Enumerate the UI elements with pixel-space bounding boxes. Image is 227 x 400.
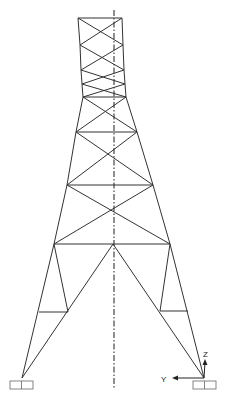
z-arrowhead-icon (203, 359, 208, 365)
brace (67, 185, 170, 244)
left-main-leg (22, 244, 54, 378)
brace (76, 97, 126, 132)
z-axis-label: Z (203, 350, 208, 359)
brace (83, 97, 137, 132)
left-support (10, 381, 33, 389)
upper-left-leg (78, 18, 83, 97)
mid-left-leg (54, 97, 83, 244)
left-sub-brace (54, 244, 68, 312)
right-support (193, 381, 216, 389)
upper-mast (78, 18, 126, 97)
y-arrowhead-icon (172, 376, 178, 381)
middle-body (54, 97, 170, 244)
brace (54, 185, 153, 244)
tower-diagram: Z Y (0, 0, 227, 400)
right-sub-brace (160, 244, 170, 311)
brace (67, 132, 137, 185)
right-diagonal (113, 244, 204, 378)
y-axis-label: Y (161, 375, 167, 384)
lower-legs (22, 244, 204, 378)
